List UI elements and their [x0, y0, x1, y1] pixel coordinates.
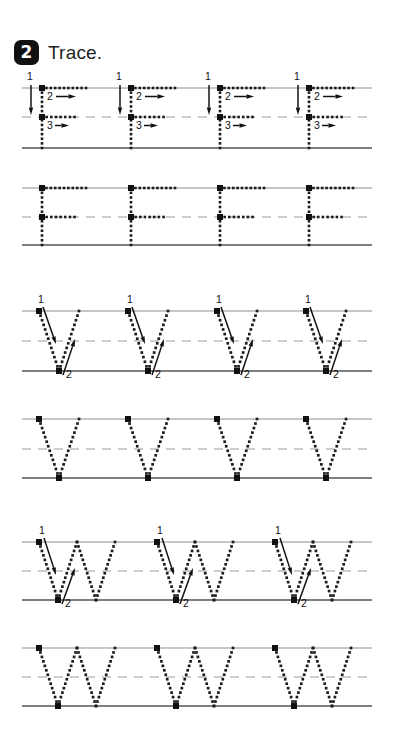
svg-text:1: 1: [216, 293, 222, 305]
row-w-plain-canvas: [0, 632, 402, 722]
svg-text:1: 1: [305, 293, 311, 305]
row-f-guided-canvas: 123123123123: [0, 72, 402, 164]
trace-letter-f: 123: [205, 70, 265, 149]
svg-text:1: 1: [27, 70, 33, 82]
trace-letter-w: 12: [36, 524, 116, 609]
instruction-label: Trace.: [48, 42, 102, 64]
svg-text:3: 3: [314, 119, 320, 131]
row-v-plain: [0, 403, 402, 494]
row-f-plain-canvas: [0, 172, 402, 261]
trace-letter-w: 12: [154, 524, 234, 609]
svg-text:3: 3: [225, 119, 231, 131]
trace-letter-v: 12: [303, 293, 347, 380]
trace-letter-f: 123: [294, 70, 354, 149]
svg-text:2: 2: [183, 597, 189, 609]
trace-letter-f: 123: [116, 70, 176, 149]
svg-text:3: 3: [47, 119, 53, 131]
trace-letter-v: [303, 416, 347, 481]
svg-text:1: 1: [205, 70, 211, 82]
row-w-plain: [0, 632, 402, 722]
row-v-guided-canvas: 12121212: [0, 295, 402, 387]
row-v-plain-canvas: [0, 403, 402, 494]
trace-letter-f: [217, 185, 265, 246]
guide-lines: [22, 419, 372, 478]
svg-text:2: 2: [244, 368, 250, 380]
row-w-guided-canvas: 121212: [0, 526, 402, 616]
svg-text:2: 2: [314, 90, 320, 102]
trace-letter-v: [125, 416, 169, 481]
trace-letter-f: [39, 185, 87, 246]
worksheet-header: 2 Trace.: [14, 40, 102, 65]
trace-letter-f: 123: [27, 70, 87, 149]
step-number-badge: 2: [14, 40, 39, 65]
svg-text:1: 1: [39, 524, 45, 536]
svg-text:2: 2: [333, 368, 339, 380]
svg-text:2: 2: [65, 597, 71, 609]
svg-text:1: 1: [294, 70, 300, 82]
trace-letter-f: [306, 185, 354, 246]
svg-text:2: 2: [136, 90, 142, 102]
svg-text:1: 1: [127, 293, 133, 305]
row-v-guided: 12121212: [0, 295, 402, 387]
row-f-plain: [0, 172, 402, 261]
svg-text:1: 1: [38, 293, 44, 305]
svg-text:2: 2: [155, 368, 161, 380]
svg-text:1: 1: [157, 524, 163, 536]
svg-text:1: 1: [275, 524, 281, 536]
trace-letter-w: 12: [272, 524, 352, 609]
trace-letter-v: 12: [214, 293, 258, 380]
svg-text:2: 2: [225, 90, 231, 102]
svg-text:2: 2: [66, 368, 72, 380]
row-f-guided: 123123123123: [0, 72, 402, 164]
trace-letter-v: 12: [125, 293, 169, 380]
row-w-guided: 121212: [0, 526, 402, 616]
svg-text:2: 2: [47, 90, 53, 102]
svg-text:1: 1: [116, 70, 122, 82]
trace-letter-v: 12: [36, 293, 80, 380]
svg-text:3: 3: [136, 119, 142, 131]
trace-letter-f: [128, 185, 176, 246]
svg-text:2: 2: [301, 597, 307, 609]
